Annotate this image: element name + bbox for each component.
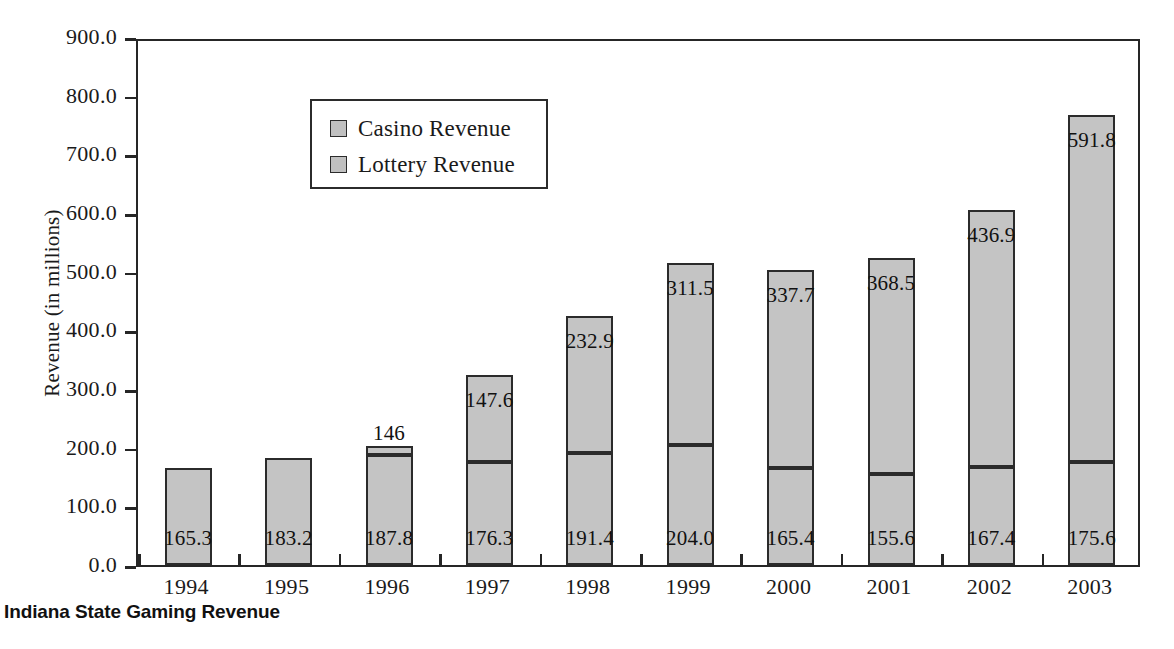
bar-group[interactable]: 183.2	[265, 458, 312, 565]
bar-segment-casino[interactable]: 436.9	[968, 210, 1015, 466]
x-axis-tick-mark	[740, 554, 743, 565]
bar-value-label-casino: 147.6	[465, 390, 513, 411]
bar-segment-lottery[interactable]: 165.4	[767, 468, 814, 565]
y-axis-tick-label: 700.0	[66, 141, 117, 167]
legend-swatch-lottery-icon	[330, 156, 347, 173]
y-axis-tick-label: 600.0	[66, 200, 117, 226]
y-axis-tick-mark	[125, 331, 136, 334]
bar-value-label-lottery: 183.2	[264, 528, 312, 549]
legend-swatch-casino-icon	[330, 120, 347, 137]
bar-segment-casino[interactable]: 368.5	[868, 258, 915, 474]
bar-value-label-casino: 311.5	[666, 278, 713, 299]
bar-value-label-lottery: 165.3	[164, 528, 212, 549]
y-axis-tick-label: 400.0	[66, 317, 117, 343]
y-axis-tick-label: 0.0	[89, 552, 117, 578]
x-axis-tick-mark	[941, 554, 944, 565]
legend-label-lottery: Lottery Revenue	[358, 152, 515, 178]
bar-segment-lottery[interactable]: 183.2	[265, 458, 312, 565]
bar-value-label-lottery: 167.4	[967, 528, 1015, 549]
y-axis-tick-label: 200.0	[66, 435, 117, 461]
y-axis-tick-label: 300.0	[66, 376, 117, 402]
bar-group[interactable]: 165.4337.7	[767, 270, 814, 565]
x-axis-label-1996: 1996	[337, 574, 437, 600]
bar-segment-casino[interactable]: 146	[366, 446, 413, 455]
y-axis-tick-mark	[125, 273, 136, 276]
bar-value-label-lottery: 176.3	[465, 528, 513, 549]
y-axis-tick-mark	[125, 507, 136, 510]
bar-segment-casino[interactable]: 311.5	[667, 263, 714, 446]
bar-segment-lottery[interactable]: 155.6	[868, 474, 915, 565]
y-axis-tick-mark	[125, 38, 136, 41]
x-axis-label-2000: 2000	[739, 574, 839, 600]
legend-item-lottery: Lottery Revenue	[330, 147, 546, 182]
bar-group[interactable]: 165.3	[165, 468, 212, 565]
bar-value-label-lottery: 155.6	[867, 528, 915, 549]
bar-value-label-casino: 337.7	[766, 285, 814, 306]
bar-group[interactable]: 175.6591.8	[1068, 115, 1115, 565]
y-axis-tick-mark	[125, 155, 136, 158]
bar-segment-casino[interactable]: 147.6	[466, 375, 513, 462]
bar-value-label-lottery: 165.4	[766, 528, 814, 549]
x-axis-tick-mark	[439, 554, 442, 565]
bar-value-label-lottery: 187.8	[365, 528, 413, 549]
bar-value-label-casino: 591.8	[1068, 130, 1116, 151]
y-axis-tick-mark	[125, 566, 136, 569]
x-axis-label-1998: 1998	[538, 574, 638, 600]
plot-area: 165.3183.2187.8146176.3147.6191.4232.920…	[136, 39, 1140, 567]
chart-figure: Revenue (in millions) 0.0100.0200.0300.0…	[0, 0, 1174, 649]
bar-value-label-lottery: 204.0	[666, 528, 714, 549]
x-axis-tick-mark	[238, 554, 241, 565]
bar-group[interactable]: 204.0311.5	[667, 263, 714, 565]
y-axis-tick-label: 500.0	[66, 259, 117, 285]
bar-segment-lottery[interactable]: 176.3	[466, 462, 513, 565]
bar-value-label-casino: 436.9	[967, 225, 1015, 246]
x-axis-tick-mark	[640, 554, 643, 565]
y-axis-tick-mark	[125, 390, 136, 393]
chart-legend: Casino Revenue Lottery Revenue	[310, 99, 548, 189]
y-axis-tick-label: 800.0	[66, 83, 117, 109]
bar-segment-lottery[interactable]: 167.4	[968, 467, 1015, 565]
legend-item-casino: Casino Revenue	[330, 111, 546, 146]
x-axis-tick-mark	[138, 554, 141, 565]
bar-segment-lottery[interactable]: 165.3	[165, 468, 212, 565]
bar-value-label-lottery: 191.4	[566, 528, 614, 549]
bar-segment-lottery[interactable]: 187.8	[366, 455, 413, 565]
x-axis-label-1995: 1995	[237, 574, 337, 600]
bar-group[interactable]: 191.4232.9	[566, 316, 613, 565]
x-axis-tick-mark	[540, 554, 543, 565]
bar-group[interactable]: 187.8146	[366, 446, 413, 565]
y-axis-tick-mark	[125, 214, 136, 217]
bar-value-label-lottery: 175.6	[1068, 528, 1116, 549]
bar-group[interactable]: 155.6368.5	[868, 258, 915, 565]
y-axis-tick-label: 900.0	[66, 24, 117, 50]
x-axis-label-1999: 1999	[638, 574, 738, 600]
x-axis-label-2002: 2002	[939, 574, 1039, 600]
bar-value-label-casino: 146	[373, 423, 405, 444]
bar-segment-lottery[interactable]: 175.6	[1068, 462, 1115, 565]
x-axis-label-2001: 2001	[839, 574, 939, 600]
y-axis-tick-label: 100.0	[66, 493, 117, 519]
x-axis-label-1997: 1997	[437, 574, 537, 600]
legend-label-casino: Casino Revenue	[358, 116, 511, 142]
y-axis-tick-mark	[125, 449, 136, 452]
bar-segment-casino[interactable]: 337.7	[767, 270, 814, 468]
bar-group[interactable]: 176.3147.6	[466, 375, 513, 565]
bar-segment-casino[interactable]: 232.9	[566, 316, 613, 453]
figure-caption: Indiana State Gaming Revenue	[4, 601, 280, 623]
x-axis-tick-mark	[841, 554, 844, 565]
y-axis-label: Revenue (in millions)	[32, 39, 72, 567]
bar-value-label-casino: 232.9	[566, 331, 614, 352]
bar-segment-lottery[interactable]: 204.0	[667, 445, 714, 565]
x-axis-tick-mark	[1042, 554, 1045, 565]
bar-group[interactable]: 167.4436.9	[968, 210, 1015, 565]
bar-segment-casino[interactable]: 591.8	[1068, 115, 1115, 462]
x-axis-tick-mark	[339, 554, 342, 565]
y-axis-tick-mark	[125, 97, 136, 100]
bar-segment-lottery[interactable]: 191.4	[566, 453, 613, 565]
x-axis-label-1994: 1994	[136, 574, 236, 600]
bar-value-label-casino: 368.5	[867, 273, 915, 294]
x-axis-label-2003: 2003	[1040, 574, 1140, 600]
